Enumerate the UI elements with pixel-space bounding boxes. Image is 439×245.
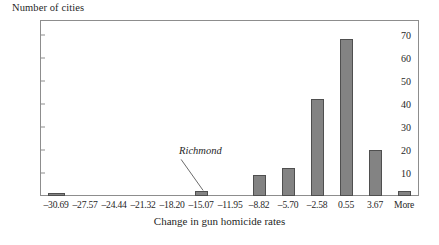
histogram-bar — [48, 193, 65, 196]
histogram-bar — [253, 175, 266, 196]
x-tick-label: –15.07 — [188, 199, 213, 210]
x-tick-label: –30.69 — [43, 199, 68, 210]
y-tick-label: 70 — [401, 29, 411, 40]
y-tick-mark — [41, 149, 45, 150]
y-tick-label: 40 — [401, 98, 411, 109]
histogram-bar — [282, 168, 295, 196]
histogram-bar — [398, 191, 411, 196]
x-tick-label: –2.58 — [307, 199, 328, 210]
histogram-bar — [340, 39, 353, 196]
x-tick-label: More — [394, 199, 414, 210]
histogram-bar — [369, 150, 382, 196]
x-tick-label: –8.82 — [249, 199, 270, 210]
y-tick-label: 20 — [401, 144, 411, 155]
x-tick-label: –5.70 — [278, 199, 299, 210]
x-tick-label: –24.44 — [101, 199, 126, 210]
y-tick-label: 10 — [401, 167, 411, 178]
x-tick-label: –18.20 — [159, 199, 184, 210]
plot-area: 10203040506070 — [41, 21, 418, 196]
annotation-label-richmond: Richmond — [179, 145, 222, 156]
histogram-figure: Number of cities 10203040506070 Change i… — [0, 0, 439, 245]
y-tick-label: 60 — [401, 52, 411, 63]
y-tick-mark — [41, 34, 45, 35]
y-tick-label: 30 — [401, 121, 411, 132]
x-tick-label: –27.57 — [72, 199, 97, 210]
y-tick-mark — [41, 103, 45, 104]
y-tick-mark — [41, 57, 45, 58]
y-axis-title: Number of cities — [12, 2, 84, 13]
x-tick-label: 0.55 — [338, 199, 354, 210]
y-tick-mark — [41, 172, 45, 173]
histogram-bar — [311, 99, 324, 196]
x-axis-title: Change in gun homicide rates — [0, 215, 439, 227]
x-tick-label: 3.67 — [367, 199, 383, 210]
y-tick-label: 50 — [401, 75, 411, 86]
y-tick-mark — [41, 80, 45, 81]
y-tick-mark — [41, 126, 45, 127]
x-tick-label: –21.32 — [130, 199, 155, 210]
x-tick-label: –11.95 — [218, 199, 243, 210]
histogram-bar — [195, 191, 208, 196]
